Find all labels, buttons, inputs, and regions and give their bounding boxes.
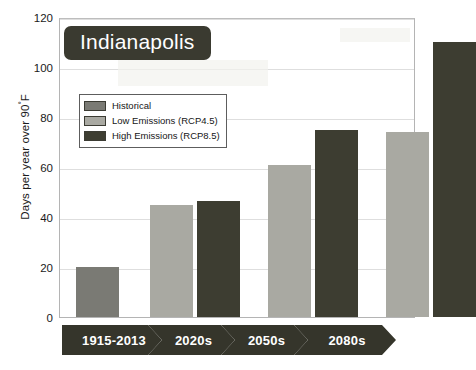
legend-entry: Historical — [84, 99, 220, 113]
y-axis-tick-label: 20 — [21, 262, 53, 274]
legend-entry: High Emissions (RCP8.5) — [84, 129, 220, 143]
legend-entry: Low Emissions (RCP4.5) — [84, 114, 220, 128]
legend-swatch — [84, 116, 106, 126]
degree-symbol: ° — [17, 101, 26, 104]
y-axis-tick-label: 100 — [21, 62, 53, 74]
bar — [150, 205, 193, 318]
y-axis-tick-label: 80 — [21, 112, 53, 124]
bar — [386, 132, 429, 317]
y-axis-tick-label: 40 — [21, 212, 53, 224]
gridline — [60, 19, 414, 20]
legend-label: High Emissions (RCP8.5) — [112, 131, 220, 141]
x-axis-category-1915-2013: 1915-2013 — [62, 325, 162, 355]
bar — [268, 165, 311, 318]
gridline — [60, 69, 414, 70]
gridline — [60, 169, 414, 170]
x-axis-category-2080s: 2080s — [294, 325, 396, 355]
y-axis-tick-label: 60 — [21, 162, 53, 174]
legend-label: Low Emissions (RCP4.5) — [112, 116, 218, 126]
legend-label: Historical — [112, 101, 151, 111]
chart-title: Indianapolis — [64, 26, 211, 60]
plot-area — [59, 18, 415, 318]
legend: HistoricalLow Emissions (RCP4.5)High Emi… — [79, 94, 227, 148]
y-axis-tick-label: 120 — [21, 12, 53, 24]
bar — [433, 42, 476, 317]
legend-swatch — [84, 131, 106, 141]
y-axis-unit: F — [19, 94, 31, 101]
bar — [197, 201, 240, 317]
legend-swatch — [84, 101, 106, 111]
x-axis-category-band: 1915-20132020s2050s2080s — [62, 325, 414, 355]
bar — [315, 130, 358, 318]
bar — [76, 267, 119, 317]
y-axis-tick-label: 0 — [21, 312, 53, 324]
